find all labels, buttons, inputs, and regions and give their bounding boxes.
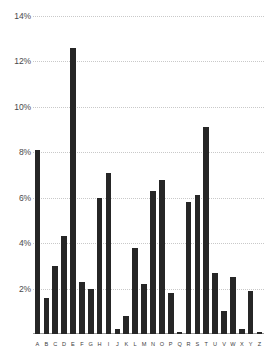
y-tick-label: 6% xyxy=(0,193,31,202)
bar-d xyxy=(61,16,67,334)
x-tick-label-b: B xyxy=(44,340,48,348)
bar-rect xyxy=(186,202,192,334)
x-tick-label-k: K xyxy=(124,340,128,348)
y-tick-label: 12% xyxy=(0,57,31,66)
x-tick-label-e: E xyxy=(71,340,75,348)
bar-rect xyxy=(88,289,94,334)
bar-rect xyxy=(123,316,129,334)
bar-s xyxy=(195,16,201,334)
x-tick-label-v: V xyxy=(222,340,226,348)
x-axis: ABCDEFGHIJKLMNOPQRSTUVWXYZ xyxy=(33,340,264,354)
bar-b xyxy=(44,16,50,334)
x-tick-label-c: C xyxy=(53,340,57,348)
bar-rect xyxy=(150,191,156,334)
bar-c xyxy=(52,16,58,334)
bar-a xyxy=(35,16,41,334)
bars-layer xyxy=(33,16,264,334)
x-tick-label-h: H xyxy=(98,340,102,348)
bar-rect xyxy=(52,266,58,334)
x-tick-label-q: Q xyxy=(177,340,181,348)
x-tick-label-i: I xyxy=(108,340,110,348)
bar-rect xyxy=(203,127,209,334)
x-tick-label-r: R xyxy=(186,340,190,348)
x-tick-label-p: P xyxy=(169,340,173,348)
x-tick-label-s: S xyxy=(195,340,199,348)
bar-f xyxy=(79,16,85,334)
bar-rect xyxy=(239,329,245,334)
bar-rect xyxy=(106,173,112,334)
bar-p xyxy=(168,16,174,334)
bar-rect xyxy=(44,298,50,334)
bar-i xyxy=(106,16,112,334)
bar-z xyxy=(257,16,263,334)
bar-rect xyxy=(177,332,183,334)
x-tick-label-w: W xyxy=(230,340,235,348)
bar-rect xyxy=(257,332,263,334)
y-tick-label: 4% xyxy=(0,239,31,248)
bar-l xyxy=(132,16,138,334)
bar-rect xyxy=(248,291,254,334)
x-tick-label-g: G xyxy=(89,340,93,348)
bar-rect xyxy=(115,329,121,334)
bar-rect xyxy=(221,311,227,334)
bar-g xyxy=(88,16,94,334)
bar-e xyxy=(70,16,76,334)
y-tick-label: 14% xyxy=(0,12,31,21)
bar-k xyxy=(123,16,129,334)
bar-rect xyxy=(168,293,174,334)
x-tick-label-a: A xyxy=(36,340,40,348)
bar-u xyxy=(212,16,218,334)
x-tick-label-u: U xyxy=(213,340,217,348)
y-axis: 2%4%6%8%10%12%14% xyxy=(0,0,31,356)
bar-rect xyxy=(35,150,41,334)
bar-rect xyxy=(230,277,236,334)
bar-y xyxy=(248,16,254,334)
bar-rect xyxy=(141,284,147,334)
bar-v xyxy=(221,16,227,334)
bar-rect xyxy=(212,273,218,334)
bar-j xyxy=(115,16,121,334)
bar-h xyxy=(97,16,103,334)
x-tick-label-t: T xyxy=(205,340,208,348)
bar-rect xyxy=(97,198,103,334)
x-tick-label-x: X xyxy=(240,340,244,348)
bar-w xyxy=(230,16,236,334)
y-tick-label: 8% xyxy=(0,148,31,157)
bar-rect xyxy=(79,282,85,334)
bar-n xyxy=(150,16,156,334)
x-tick-label-m: M xyxy=(142,340,147,348)
bar-rect xyxy=(132,248,138,334)
bar-rect xyxy=(159,180,165,334)
x-tick-label-y: Y xyxy=(249,340,253,348)
letter-frequency-bar-chart: 2%4%6%8%10%12%14% ABCDEFGHIJKLMNOPQRSTUV… xyxy=(0,0,270,356)
x-tick-label-o: O xyxy=(160,340,164,348)
y-tick-label: 2% xyxy=(0,284,31,293)
x-tick-label-j: J xyxy=(116,340,119,348)
x-tick-label-f: F xyxy=(80,340,83,348)
x-tick-label-l: L xyxy=(134,340,137,348)
bar-x xyxy=(239,16,245,334)
bar-o xyxy=(159,16,165,334)
bar-r xyxy=(186,16,192,334)
bar-m xyxy=(141,16,147,334)
x-tick-label-d: D xyxy=(62,340,66,348)
bar-rect xyxy=(195,195,201,334)
bar-rect xyxy=(70,48,76,334)
x-tick-label-n: N xyxy=(151,340,155,348)
bar-q xyxy=(177,16,183,334)
bar-t xyxy=(203,16,209,334)
y-tick-label: 10% xyxy=(0,102,31,111)
x-tick-label-z: Z xyxy=(258,340,261,348)
bar-rect xyxy=(61,236,67,334)
